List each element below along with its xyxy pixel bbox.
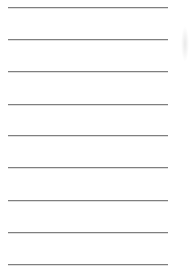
ruled-line <box>8 7 168 8</box>
ruled-line <box>8 39 168 40</box>
ruled-line <box>8 71 168 72</box>
bleed-through-mark <box>181 26 189 62</box>
ruled-line <box>8 135 168 136</box>
lined-page <box>0 0 195 268</box>
ruled-line <box>8 104 168 105</box>
ruled-line <box>8 232 168 233</box>
ruled-line <box>8 264 168 265</box>
ruled-line <box>8 167 168 168</box>
ruled-line <box>8 200 168 201</box>
